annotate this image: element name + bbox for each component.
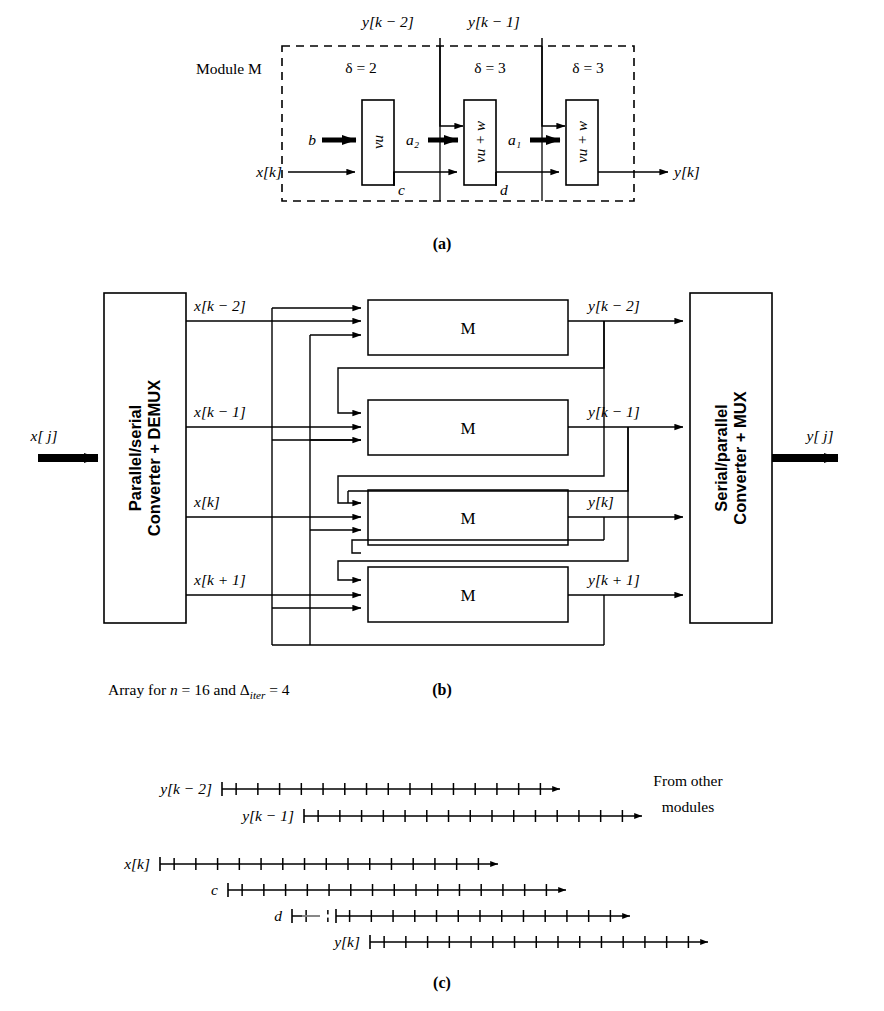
module-box-3-label: M — [460, 510, 475, 527]
feedback-line-yk2 — [440, 38, 463, 126]
stage-delay-3: δ = 3 — [572, 60, 604, 76]
timeline-row-label: y[k − 2] — [160, 781, 212, 797]
demux-block-label: Parallel/serial Converter + DEMUX — [126, 308, 164, 608]
timeline-row — [304, 809, 642, 823]
feedback-line-yk1 — [542, 38, 565, 126]
panel-c-label: (c) — [433, 975, 451, 991]
stage-box-3-text: vu + w — [574, 121, 591, 163]
panel-b-caption: Array for n = 16 and Δiter = 4 — [108, 682, 290, 701]
timeline-row-label: c — [211, 882, 218, 898]
stage-box-2-text: vu + w — [472, 121, 489, 163]
input-tap-label-2: x[k − 1] — [194, 404, 246, 420]
stage-delay-1: δ = 2 — [345, 60, 377, 76]
timeline-row-label: d — [274, 908, 282, 924]
global-input-label: x[ j] — [30, 428, 57, 444]
timeline-row — [222, 782, 560, 796]
input-tap-label-1: x[k − 2] — [194, 298, 246, 314]
timeline-row — [160, 857, 498, 871]
output-tap-label-3: y[k] — [588, 494, 614, 510]
top-input-label-yk1: y[k − 1] — [468, 14, 520, 30]
mux-label-line1: Serial/parallel — [712, 404, 730, 511]
timeline-row-label: y[k − 1] — [242, 808, 294, 824]
timeline-row — [292, 909, 630, 923]
module-box-2-label: M — [460, 420, 475, 437]
module-m-label: Module M — [196, 61, 262, 77]
demux-label-line1: Parallel/serial — [126, 405, 144, 511]
timeline-row — [228, 883, 566, 897]
global-output-label: y[ j] — [806, 428, 833, 444]
output-tap-label-2: y[k − 1] — [588, 404, 640, 420]
input-label-b: b — [308, 132, 316, 148]
signal-label-d: d — [500, 182, 508, 198]
input-tap-label-3: x[k] — [194, 494, 220, 510]
mux-label-line2: Converter + MUX — [731, 391, 749, 524]
module-box-1-label: M — [460, 320, 475, 337]
stage-delay-2: δ = 3 — [474, 60, 506, 76]
signal-label-a1: a₁ — [508, 132, 521, 148]
output-label-yk: y[k] — [674, 164, 700, 180]
input-label-xk: x[k] — [256, 164, 282, 180]
mux-block-label: Serial/parallel Converter + MUX — [712, 308, 750, 608]
output-tap-label-4: y[k + 1] — [588, 572, 640, 588]
timeline-row-label: x[k] — [124, 856, 150, 872]
timeline-row-label: y[k] — [334, 934, 360, 950]
stage-box-1-text: vu — [370, 135, 387, 149]
signal-label-a2: a₂ — [406, 132, 419, 148]
figure-root: Module M δ = 2 δ = 3 δ = 3 y[k − 2] y[k … — [0, 0, 884, 1011]
note-line-1: From other — [653, 773, 722, 789]
demux-label-line2: Converter + DEMUX — [145, 380, 163, 536]
signal-label-c: c — [398, 182, 405, 198]
module-box-4-label: M — [460, 587, 475, 604]
input-tap-label-4: x[k + 1] — [194, 572, 246, 588]
timeline-row — [370, 935, 708, 949]
note-line-2: modules — [662, 799, 715, 815]
panel-a-label: (a) — [433, 236, 452, 252]
output-tap-label-1: y[k − 2] — [588, 298, 640, 314]
panel-b-label: (b) — [432, 682, 452, 698]
top-input-label-yk2: y[k − 2] — [362, 14, 414, 30]
